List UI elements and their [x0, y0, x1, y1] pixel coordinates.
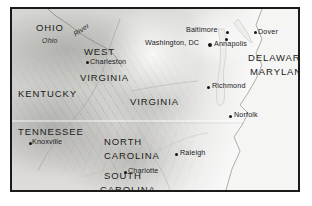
city-marker-richmond: [207, 86, 210, 89]
city-label-charleston: Charleston: [90, 58, 126, 65]
water-label-ohio: Ohio: [42, 37, 58, 44]
state-label-ohio: OHIO: [36, 23, 64, 33]
state-label-delaware: DELAWARE: [248, 53, 300, 63]
city-marker-norfolk: [229, 115, 232, 118]
city-marker-baltimore: [226, 31, 229, 34]
city-label-washington-dc: Washington, DC: [145, 39, 199, 46]
map-labels: Ohio River OHIO WEST VIRGINIA KENTUCKY V…: [12, 9, 298, 190]
water-label-river: River: [72, 22, 90, 38]
state-label-virginia: VIRGINIA: [130, 97, 179, 107]
city-marker-charleston: [86, 61, 89, 64]
city-label-charlotte: Charlotte: [128, 167, 159, 174]
state-label-west: WEST: [84, 47, 115, 57]
state-label-maryland: MARYLAND: [250, 67, 300, 77]
city-marker-charlotte: [124, 171, 127, 174]
city-label-annapolis: Annapolis: [214, 40, 247, 47]
state-label-south-carolina: CAROLINA: [100, 185, 156, 192]
map-figure: Ohio River OHIO WEST VIRGINIA KENTUCKY V…: [0, 0, 312, 206]
city-marker-dover: [254, 31, 257, 34]
city-marker-washington-dc: [208, 43, 212, 47]
city-label-baltimore: Baltimore: [186, 26, 218, 33]
state-label-kentucky: KENTUCKY: [18, 89, 77, 99]
city-label-knoxville: Knoxville: [32, 138, 62, 145]
city-label-richmond: Richmond: [212, 82, 246, 89]
city-label-dover: Dover: [258, 28, 278, 35]
state-label-north-carolina: CAROLINA: [104, 151, 160, 161]
map-frame: Ohio River OHIO WEST VIRGINIA KENTUCKY V…: [10, 7, 300, 192]
state-label-west-virginia: VIRGINIA: [80, 73, 129, 83]
state-label-north: NORTH: [104, 137, 142, 147]
city-marker-raleigh: [175, 153, 178, 156]
city-label-norfolk: Norfolk: [234, 111, 258, 118]
state-label-tennessee: TENNESSEE: [18, 127, 84, 137]
city-label-raleigh: Raleigh: [180, 149, 205, 156]
